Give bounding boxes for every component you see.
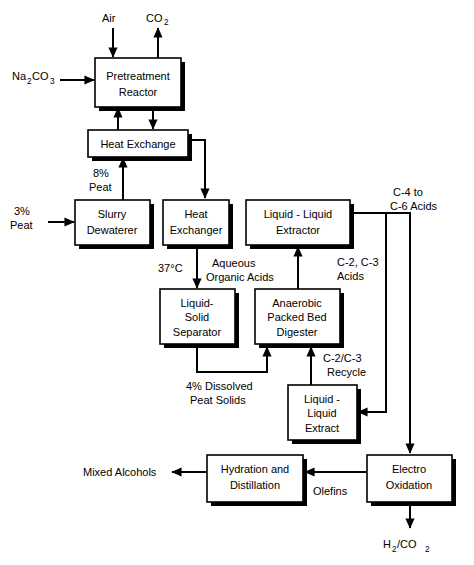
flow-c2c3-acids [350,213,386,412]
box-anaerobic-digester[interactable]: Anaerobic Packed Bed Digester [255,289,344,348]
box-label-liquid-liquid-extract-line3: Extract [305,422,339,434]
box-label-liquid-liquid-extractor-line2: Extractor [276,224,320,236]
label-c2c3-line1: C-2, C-3 [337,256,379,268]
box-label-anaerobic-digester-line1: Anaerobic [272,297,322,309]
label-mixed-alcohols: Mixed Alcohols [83,466,157,478]
box-label-heat-exchanger-line2: Exchanger [170,224,223,236]
box-liquid-solid-separator[interactable]: Liquid- Solid Separator [160,289,239,348]
box-heat-exchanger[interactable]: Heat Exchanger [163,200,233,249]
box-pretreatment-reactor[interactable]: Pretreatment Reactor [95,58,185,111]
box-electro-oxidation[interactable]: Electro Oxidation [367,455,456,506]
label-co2-top: CO 2 [146,12,169,27]
label-co2-subscript: 2 [164,18,169,27]
label-aqueous-organic-acids: Aqueous Organic Acids [206,257,274,283]
box-label-electro-oxidation-line1: Electro [392,463,426,475]
box-label-liquid-liquid-extractor-line1: Liquid - Liquid [264,208,333,220]
label-c4-c6-acids: C-4 to C-6 Acids [390,186,438,212]
label-8pct-peat-line2: Peat [89,181,112,193]
label-aqueous-line1: Aqueous [212,257,256,269]
box-heat-exchange[interactable]: Heat Exchange [88,130,192,161]
label-recycle-line2: Recycle [327,366,366,378]
label-c2-c3-recycle: C-2/C-3 Recycle [323,352,366,378]
label-c4c6-line1: C-4 to [393,186,423,198]
label-na2co3: Na 2 CO 3 [12,70,55,86]
label-co2-text: CO [146,12,163,24]
label-h2co2-h: H [383,538,391,550]
box-label-electro-oxidation-line2: Oxidation [386,479,432,491]
box-label-hydration-distillation-line1: Hydration and [221,463,290,475]
label-air: Air [102,12,116,24]
label-3pct-peat: 3% Peat [10,205,33,231]
label-dissolved-peat-solids: 4% Dissolved Peat Solids [186,380,253,406]
label-h2co2-co: /CO [397,538,417,550]
label-8pct-peat: 8% Peat [89,167,112,193]
box-label-pretreatment-reactor-line1: Pretreatment [106,70,170,82]
label-3pct-peat-line1: 3% [14,205,30,217]
box-hydration-distillation[interactable]: Hydration and Distillation [207,455,307,506]
process-flow-diagram: Pretreatment Reactor Heat Exchange Slurr… [0,0,474,565]
box-label-liquid-solid-separator-line1: Liquid- [180,297,213,309]
label-recycle-line1: C-2/C-3 [323,352,362,364]
box-label-slurry-dewaterer-line1: Slurry [98,208,127,220]
label-3pct-peat-line2: Peat [10,219,33,231]
box-label-heat-exchange: Heat Exchange [100,138,175,150]
label-dissolved-line1: 4% Dissolved [186,380,253,392]
label-c4c6-line2: C-6 Acids [390,200,438,212]
label-c2-c3-acids: C-2, C-3 Acids [337,256,379,282]
label-temperature: 37°C [158,262,183,274]
label-8pct-peat-line1: 8% [93,167,109,179]
label-na2co3-na: Na [12,70,27,82]
box-slurry-dewaterer[interactable]: Slurry Dewaterer [75,200,154,249]
flow-dissolved-peat-solids [197,346,267,372]
box-label-liquid-liquid-extract-line2: Liquid [307,407,336,419]
label-h2co2-sub2: 2 [425,545,430,554]
label-olefins: Olefins [313,485,348,497]
label-dissolved-line2: Peat Solids [190,394,246,406]
box-liquid-liquid-extractor[interactable]: Liquid - Liquid Extractor [246,200,354,249]
label-h2-co2: H 2 /CO 2 [383,538,430,554]
label-na2co3-sub2: 3 [50,77,55,86]
box-label-anaerobic-digester-line3: Digester [277,326,318,338]
box-label-liquid-liquid-extract-line1: Liquid - [304,393,340,405]
box-label-anaerobic-digester-line2: Packed Bed [267,311,326,323]
box-label-slurry-dewaterer-line2: Dewaterer [87,224,138,236]
box-label-hydration-distillation-line2: Distillation [230,479,280,491]
box-label-pretreatment-reactor-line2: Reactor [119,86,158,98]
box-label-liquid-solid-separator-line3: Separator [173,326,222,338]
box-liquid-liquid-extract[interactable]: Liquid - Liquid Extract [288,385,361,444]
label-aqueous-line2: Organic Acids [206,271,274,283]
label-na2co3-co: CO [32,70,49,82]
box-label-heat-exchanger-line1: Heat [184,208,207,220]
box-label-liquid-solid-separator-line2: Solid [185,311,209,323]
label-c2c3-line2: Acids [337,270,364,282]
